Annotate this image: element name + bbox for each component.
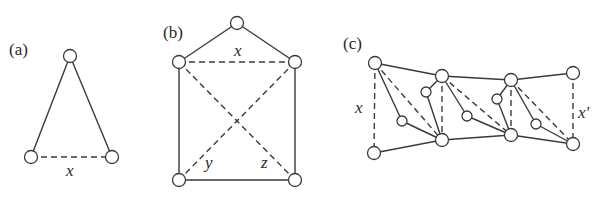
graph-node bbox=[505, 129, 518, 142]
graph-node bbox=[369, 57, 382, 70]
panel-c-chain-graph: (c)xx' bbox=[343, 34, 590, 160]
solid-edge bbox=[442, 76, 511, 80]
solid-edge bbox=[375, 63, 402, 121]
solid-edge bbox=[237, 23, 295, 62]
graph-node bbox=[106, 151, 119, 164]
dashed-edge bbox=[511, 80, 573, 144]
graph-node bbox=[231, 17, 244, 30]
graph-node bbox=[289, 56, 302, 69]
graph-node bbox=[25, 151, 38, 164]
solid-edge bbox=[179, 23, 237, 62]
solid-edge bbox=[442, 135, 511, 140]
dashed-edge bbox=[442, 76, 511, 135]
dashed-edge bbox=[374, 63, 375, 153]
graph-node bbox=[173, 56, 186, 69]
solid-edge bbox=[70, 56, 112, 157]
solid-edge bbox=[511, 73, 573, 80]
edge-variable-label: x bbox=[354, 98, 363, 117]
graph-node bbox=[505, 74, 518, 87]
small-graph-node bbox=[397, 116, 407, 126]
graph-node bbox=[64, 50, 77, 63]
small-graph-node bbox=[462, 111, 472, 121]
small-graph-node bbox=[421, 87, 431, 97]
panel-a-triangle-graph: (a)x bbox=[9, 40, 119, 180]
edge-variable-label: y bbox=[203, 153, 213, 172]
graph-node bbox=[368, 147, 381, 160]
solid-edge bbox=[374, 140, 442, 153]
graph-node bbox=[567, 138, 580, 151]
solid-edge bbox=[31, 56, 70, 157]
panel-b-house-graph: (b)xyz bbox=[163, 17, 302, 187]
edge-variable-label: x bbox=[233, 41, 242, 60]
edge-variable-label: x bbox=[65, 161, 74, 180]
graph-node bbox=[173, 174, 186, 187]
graph-node bbox=[436, 70, 449, 83]
panel-label: (c) bbox=[343, 34, 362, 53]
graph-figure: (a)x (b)xyz (c)xx' bbox=[0, 0, 606, 198]
graph-node bbox=[567, 67, 580, 80]
panel-label: (a) bbox=[9, 40, 28, 59]
edge-variable-label: z bbox=[260, 153, 268, 172]
small-graph-node bbox=[531, 119, 541, 129]
graph-node bbox=[289, 174, 302, 187]
small-graph-node bbox=[492, 94, 502, 104]
graph-node bbox=[436, 134, 449, 147]
panel-label: (b) bbox=[163, 23, 183, 42]
edge-variable-label: x' bbox=[577, 103, 590, 122]
